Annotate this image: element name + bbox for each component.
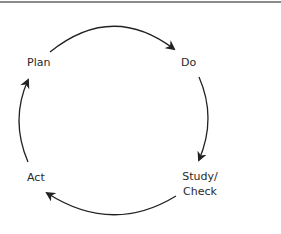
arrow-study-to-act xyxy=(47,193,176,215)
node-do: Do xyxy=(181,56,196,70)
node-study-check: Study/ Check xyxy=(180,170,220,199)
pdsa-cycle-arrows xyxy=(0,0,281,234)
arrow-do-to-study xyxy=(199,77,208,160)
node-check-label: Check xyxy=(180,185,220,199)
arrow-act-to-plan xyxy=(19,80,28,162)
node-act: Act xyxy=(27,171,45,185)
arrow-plan-to-do xyxy=(50,26,174,52)
node-plan: Plan xyxy=(27,56,50,70)
node-study-label: Study/ xyxy=(180,170,220,184)
